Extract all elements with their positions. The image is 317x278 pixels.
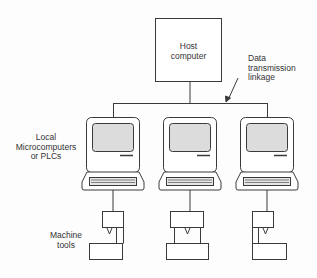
micro-label-line3: or PLCs	[10, 152, 82, 162]
microcomputers-label: Local Microcomputers or PLCs	[10, 133, 82, 162]
machine-tool-3-icon	[253, 212, 287, 260]
diagram-canvas: Host computer Data transmission linkage …	[0, 0, 317, 278]
machine-tool-1-icon	[90, 212, 124, 260]
tools-label-line2: tools	[44, 241, 88, 251]
host-label-line2: computer	[155, 52, 222, 62]
linkage-arrow	[228, 78, 238, 100]
data-linkage-label: Data transmission linkage	[248, 54, 296, 83]
computer-3-icon	[236, 118, 298, 212]
linkage-label-line3: linkage	[248, 73, 296, 83]
machine-tool-2-icon	[167, 212, 209, 260]
computer-1-icon	[82, 118, 144, 212]
computer-2-icon	[159, 118, 221, 212]
machine-tools-label: Machine tools	[44, 231, 88, 250]
host-computer-label: Host computer	[155, 42, 222, 61]
